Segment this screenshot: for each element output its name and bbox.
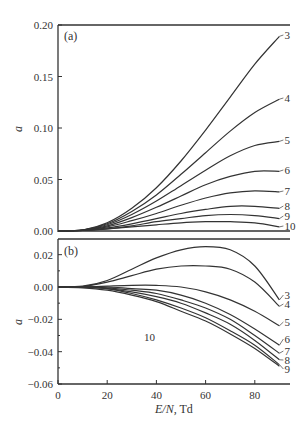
curve-label-a-5: 5 (284, 134, 290, 146)
curve-label-a-4: 4 (284, 92, 290, 104)
curve-b-10 (58, 287, 279, 366)
x-tick-label: 40 (151, 389, 163, 401)
y-tick-label: 0.00 (34, 225, 54, 237)
x-ticks: 020406080 (55, 380, 261, 401)
x-axis-label-unit: , Td (174, 402, 193, 416)
y-tick-label: 0.20 (34, 19, 54, 31)
curve-label-a-10: 10 (284, 220, 296, 232)
curve-label-b-6: 6 (284, 333, 290, 345)
panel-b-label: (b) (64, 244, 78, 258)
x-tick-label: 20 (102, 389, 114, 401)
panel-b-curves (58, 247, 279, 367)
x-tick-label: 60 (200, 389, 212, 401)
panel-a-curve-labels: 345678910 (279, 29, 296, 232)
curve-a-5 (58, 141, 279, 231)
curve-b-5 (58, 285, 279, 326)
chart-figure: 0.000.050.100.150.20 345678910 (a) a −0.… (0, 0, 306, 432)
x-axis-label: E/N, Td (154, 402, 193, 416)
y-tick-label: 0.00 (34, 281, 54, 293)
panel-a: 0.000.050.100.150.20 345678910 (a) a (11, 19, 296, 237)
curve-b-9 (58, 287, 279, 365)
y-tick-label: 0.15 (34, 71, 54, 83)
y-tick-label: −0.02 (28, 313, 53, 325)
curve-b-6 (58, 287, 279, 345)
y-tick-label: 0.10 (34, 122, 54, 134)
curve-label-b-4: 4 (284, 298, 290, 310)
curve-label-a-7: 7 (284, 185, 290, 197)
curve-label-b-5: 5 (284, 316, 290, 328)
y-tick-label: −0.04 (28, 346, 54, 358)
x-tick-label: 0 (55, 389, 61, 401)
curve-a-10 (58, 222, 279, 231)
x-axis-label-quantity: E/N (154, 402, 175, 416)
panel-a-y-axis-label: a (11, 126, 25, 132)
curve-a-7 (58, 191, 279, 231)
panel-b-y-axis-label: a (11, 319, 25, 325)
y-tick-label: 0.02 (34, 249, 53, 261)
panel-b-curve-labels: 3456789 (279, 289, 290, 375)
y-tick-label: −0.06 (28, 378, 54, 390)
panel-a-label: (a) (64, 29, 77, 43)
panel-b-y-ticks: −0.06−0.04−0.020.000.02 (28, 249, 62, 390)
panel-b-inline-label-10: 10 (144, 331, 156, 343)
curve-label-a-6: 6 (284, 164, 290, 176)
curve-a-4 (58, 99, 279, 231)
panel-b: −0.06−0.04−0.020.000.02 020406080 345678… (11, 239, 290, 401)
curve-label-b-9: 9 (284, 363, 290, 375)
curve-label-a-3: 3 (284, 29, 290, 41)
y-tick-label: 0.05 (34, 174, 54, 186)
panel-a-curves (58, 36, 279, 231)
x-tick-label: 80 (249, 389, 261, 401)
